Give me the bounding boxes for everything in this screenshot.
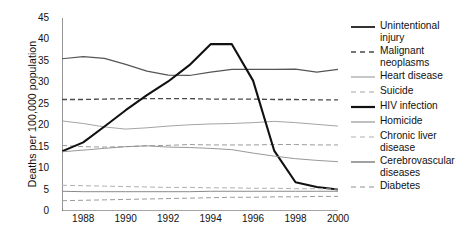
legend-item-label: Heart disease (380, 70, 443, 82)
legend-item-label: Homicide (380, 115, 422, 127)
x-axis-tick-label: 1990 (115, 214, 137, 224)
y-axis-tick-label: 15 (27, 142, 49, 152)
x-axis-tick-label: 1996 (242, 214, 264, 224)
legend-line-swatch (351, 116, 375, 128)
chart-legend: Unintentional injuryMalignant neoplasmsH… (351, 20, 465, 195)
legend-item: Malignant neoplasms (351, 45, 465, 68)
x-axis-tick-label: 1992 (157, 214, 179, 224)
legend-item-label: Unintentional injury (380, 20, 465, 43)
legend-line-swatch (351, 156, 375, 168)
series-line-chronic-liver-disease (62, 185, 338, 189)
y-axis-tick-label: 10 (27, 163, 49, 173)
legend-line-swatch (351, 181, 375, 193)
legend-item: Heart disease (351, 70, 465, 83)
x-axis-tick-labels: 1988199019921994199619982000 (62, 214, 338, 232)
legend-item-label: Suicide (380, 85, 413, 97)
series-line-malignant-neoplasms (62, 99, 338, 100)
legend-item-label: Chronic liver disease (380, 130, 465, 153)
y-axis-tick-label: 5 (27, 185, 49, 195)
legend-item-label: Cerebrovascular diseases (380, 155, 465, 178)
y-axis-tick-label: 30 (27, 77, 49, 87)
y-axis-tick-labels: 051015202530354045 (25, 0, 49, 251)
legend-line-swatch (351, 71, 375, 83)
y-axis-tick-label: 45 (27, 13, 49, 23)
y-axis-tick-label: 20 (27, 120, 49, 130)
series-line-unintentional-injury (62, 57, 338, 76)
legend-item: HIV infection (351, 100, 465, 113)
plot-svg (62, 18, 338, 211)
x-axis-tick-label: 1998 (284, 214, 306, 224)
x-axis-tick-label: 2000 (327, 214, 349, 224)
legend-line-swatch (351, 46, 375, 58)
legend-item: Diabetes (351, 180, 465, 193)
legend-item-label: Malignant neoplasms (380, 45, 465, 68)
series-line-hiv-infection (62, 44, 338, 189)
x-axis-tick-label: 1988 (72, 214, 94, 224)
y-axis-tick-label: 0 (27, 206, 49, 216)
line-chart: Deaths per 100,000 population 0510152025… (0, 0, 465, 251)
legend-item-label: Diabetes (380, 180, 420, 192)
y-axis-tick-label: 40 (27, 34, 49, 44)
y-axis-tick-label: 35 (27, 56, 49, 66)
series-line-homicide (62, 146, 338, 162)
legend-line-swatch (351, 131, 375, 143)
y-axis-tick-label: 25 (27, 99, 49, 109)
legend-item: Chronic liver disease (351, 130, 465, 153)
legend-line-swatch (351, 101, 375, 113)
legend-line-swatch (351, 86, 375, 98)
legend-item-label: HIV infection (380, 100, 438, 112)
legend-line-swatch (351, 21, 375, 33)
legend-item: Suicide (351, 85, 465, 98)
legend-item: Cerebrovascular diseases (351, 155, 465, 178)
legend-item: Unintentional injury (351, 20, 465, 43)
plot-area (62, 18, 338, 211)
series-line-diabetes (62, 196, 338, 200)
series-line-suicide (62, 145, 338, 148)
legend-item: Homicide (351, 115, 465, 128)
x-axis-tick-label: 1994 (199, 214, 221, 224)
